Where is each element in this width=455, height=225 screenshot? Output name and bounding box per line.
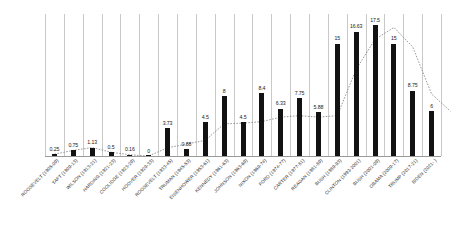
bar [429,111,434,156]
x-axis-label: KENNEDY (1961-63) [194,158,229,193]
bar [373,25,378,156]
bar [335,44,340,156]
bar-value-label: 0 [147,148,150,154]
bar [259,93,264,156]
bar-value-label: 4.5 [202,114,209,120]
x-axis-label: JOHNSON (1963-69) [213,158,249,194]
bar [241,122,246,156]
chart-container: 0.250.751.130.50.1603.730.884.584.58.46.… [0,0,455,225]
bar-value-label: 7.75 [295,90,305,96]
x-axis-label: COOLIDGE (1923-29) [98,158,135,195]
x-axis-line [45,156,441,157]
x-axis-category-labels: ROOSEVELT (1905-09)TAFT (1909-13)WILSON … [0,158,455,225]
bar [165,128,170,156]
plot-area: 0.250.751.130.50.1603.730.884.584.58.46.… [45,14,441,156]
bar [297,98,302,156]
bar [391,44,396,156]
bar-value-label: 15 [334,35,340,41]
bar-value-label: 0.25 [50,146,60,152]
x-axis-label: CLINTON (1993-2001) [324,158,362,196]
bar-value-label: 0.75 [68,142,78,148]
bar-value-label: 8.4 [258,85,265,91]
bar [278,109,283,156]
bar [354,32,359,156]
bar-value-label: 4.5 [240,114,247,120]
bar-value-label: 17.5 [370,17,380,23]
bar-value-label: 6.33 [276,100,286,106]
bar-value-label: 3.73 [163,120,173,126]
bar-value-label: 0.16 [125,146,135,152]
bar [222,96,227,156]
bar [410,91,415,156]
bar-value-label: 5.88 [314,104,324,110]
bar [316,112,321,156]
bar-value-label: 1.13 [87,139,97,145]
gridline [441,14,442,156]
bar-value-label: 0.88 [182,141,192,147]
bar-value-label: 0.5 [108,144,115,150]
bar [203,122,208,156]
bar-value-label: 15 [391,35,397,41]
bar-value-label: 6 [430,103,433,109]
bar-value-label: 8.75 [408,82,418,88]
bar-value-label: 16.63 [350,23,362,29]
bar [90,148,95,156]
bar-value-label: 8 [223,88,226,94]
